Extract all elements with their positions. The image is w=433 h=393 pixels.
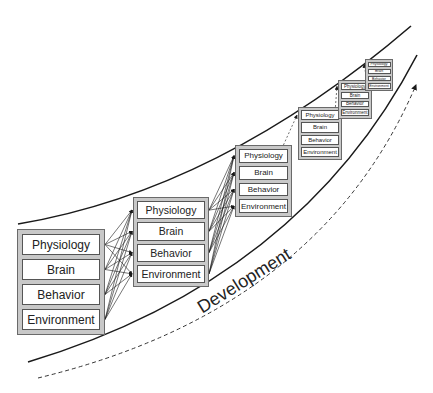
upper-boundary-curve (18, 26, 411, 224)
stage-box-4: PhysiologyBrainBehaviorEnvironment (298, 107, 342, 160)
cell-behavior: Behavior (368, 76, 391, 82)
cell-brain: Brain (341, 92, 369, 99)
stage-box-6: PhysiologyBrainBehaviorEnvironment (365, 59, 393, 91)
cell-behavior: Behavior (22, 284, 100, 305)
diagram-canvas: PhysiologyBrainBehaviorEnvironmentPhysio… (0, 0, 433, 393)
cell-environment: Environment (368, 83, 391, 89)
cell-behavior: Behavior (341, 101, 369, 108)
cell-physiology: Physiology (368, 62, 391, 68)
cell-physiology: Physiology (137, 201, 205, 219)
cell-physiology: Physiology (22, 234, 100, 255)
cell-behavior: Behavior (301, 135, 339, 145)
cell-physiology: Physiology (239, 149, 288, 163)
cell-environment: Environment (22, 309, 100, 330)
cell-behavior: Behavior (137, 244, 205, 262)
cell-brain: Brain (22, 259, 100, 280)
cell-environment: Environment (239, 199, 288, 213)
cell-brain: Brain (239, 166, 288, 180)
cell-environment: Environment (301, 147, 339, 157)
cell-environment: Environment (341, 109, 369, 116)
stage-box-3: PhysiologyBrainBehaviorEnvironment (235, 145, 292, 217)
stage-box-1: PhysiologyBrainBehaviorEnvironment (17, 229, 105, 335)
cell-brain: Brain (368, 69, 391, 75)
cell-environment: Environment (137, 265, 205, 283)
stage-box-2: PhysiologyBrainBehaviorEnvironment (133, 197, 209, 287)
cell-brain: Brain (137, 222, 205, 240)
cell-physiology: Physiology (301, 110, 339, 120)
cell-brain: Brain (301, 122, 339, 132)
cell-behavior: Behavior (239, 183, 288, 197)
